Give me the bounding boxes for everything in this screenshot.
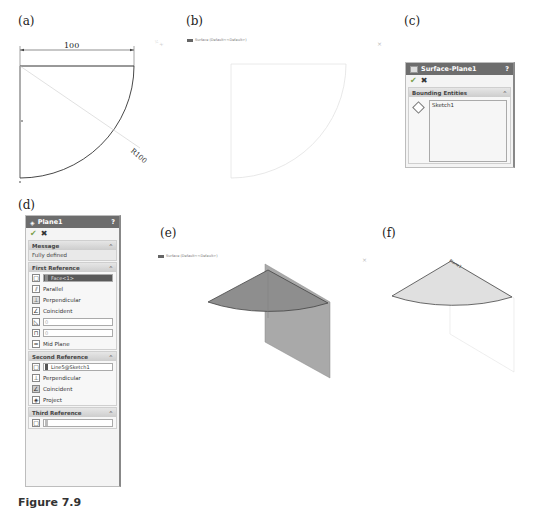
figure-caption: Figure 7.9 bbox=[18, 496, 81, 509]
